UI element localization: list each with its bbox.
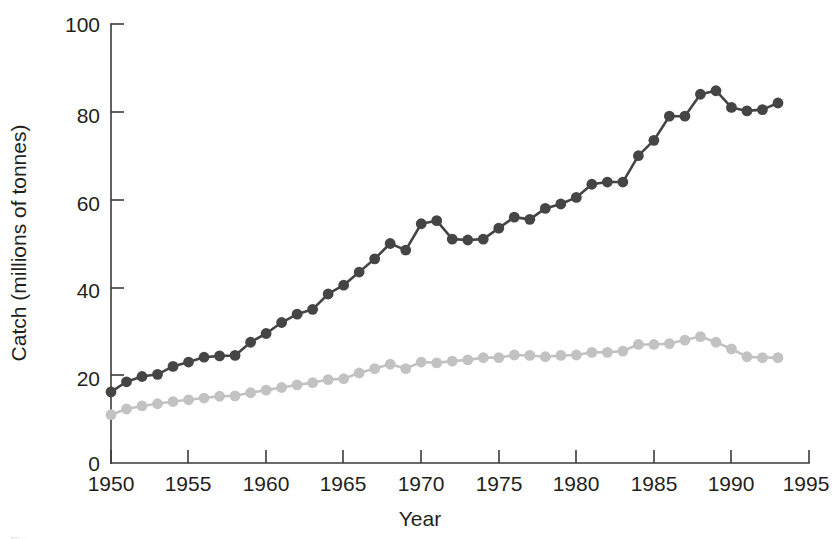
data-point xyxy=(431,215,442,226)
data-point xyxy=(416,218,427,229)
data-point xyxy=(168,361,179,372)
data-point xyxy=(586,347,597,358)
data-point xyxy=(183,394,194,405)
data-point xyxy=(354,267,365,278)
x-tick-label: 1990 xyxy=(708,472,755,495)
data-point xyxy=(230,350,241,361)
y-tick-label: 40 xyxy=(77,279,100,302)
x-tick-label: 1975 xyxy=(476,472,523,495)
data-point xyxy=(400,363,411,374)
line-chart-svg: Catch (millions of tonnes) 0 20 40 60 80… xyxy=(0,0,838,539)
data-point xyxy=(757,352,768,363)
data-point xyxy=(369,363,380,374)
x-tick-label: 1980 xyxy=(553,472,600,495)
data-point xyxy=(183,357,194,368)
x-tick-label: 1985 xyxy=(631,472,678,495)
data-point xyxy=(773,352,784,363)
data-point xyxy=(571,350,582,361)
data-point xyxy=(261,328,272,339)
data-point xyxy=(524,214,535,225)
data-point xyxy=(354,368,365,379)
data-point xyxy=(106,386,117,397)
data-point xyxy=(338,373,349,384)
data-point xyxy=(555,199,566,210)
data-point xyxy=(292,379,303,390)
series-food-fish-catch xyxy=(106,331,784,420)
data-point xyxy=(493,223,504,234)
data-point xyxy=(726,343,737,354)
x-tick-label: 1960 xyxy=(243,472,290,495)
data-point xyxy=(571,192,582,203)
data-point xyxy=(307,304,318,315)
data-point xyxy=(199,352,210,363)
data-point xyxy=(137,401,148,412)
data-point xyxy=(711,337,722,348)
y-tick-label: 100 xyxy=(65,13,100,36)
data-point xyxy=(447,234,458,245)
data-point xyxy=(711,85,722,96)
y-axis-title: Catch (millions of tonnes) xyxy=(7,125,30,362)
x-axis-title: Year xyxy=(399,507,441,530)
data-point xyxy=(369,253,380,264)
data-point xyxy=(106,409,117,420)
x-tick-label: 1955 xyxy=(165,472,212,495)
data-point xyxy=(462,354,473,365)
y-axis-ticks xyxy=(111,24,124,375)
data-point xyxy=(307,377,318,388)
y-tick-label: 60 xyxy=(77,192,100,215)
data-point xyxy=(586,179,597,190)
data-point xyxy=(152,398,163,409)
data-point xyxy=(509,350,520,361)
data-point xyxy=(509,212,520,223)
x-tick-label: 1995 xyxy=(783,472,830,495)
x-axis-ticks xyxy=(111,450,809,463)
data-point xyxy=(695,331,706,342)
data-point xyxy=(276,317,287,328)
x-tick-label: 1950 xyxy=(88,472,135,495)
data-point xyxy=(648,339,659,350)
data-point xyxy=(680,335,691,346)
data-point xyxy=(633,150,644,161)
data-point xyxy=(664,111,675,122)
series-line-food-fish-catch xyxy=(111,337,778,415)
data-point xyxy=(773,98,784,109)
data-point xyxy=(137,371,148,382)
y-tick-labels: 0 20 40 60 80 100 xyxy=(65,13,100,475)
data-point xyxy=(742,106,753,117)
x-tick-label: 1970 xyxy=(398,472,445,495)
data-point xyxy=(742,351,753,362)
data-point xyxy=(478,352,489,363)
data-point xyxy=(168,396,179,407)
data-point xyxy=(338,280,349,291)
data-point xyxy=(121,376,132,387)
x-tick-labels: 1950 1955 1960 1965 1970 1975 1980 1985 … xyxy=(88,472,830,495)
data-point xyxy=(680,111,691,122)
series-line-total-catch xyxy=(111,91,778,392)
data-point xyxy=(540,351,551,362)
data-point xyxy=(292,309,303,320)
y-tick-label: 20 xyxy=(77,367,100,390)
data-point xyxy=(462,235,473,246)
data-point xyxy=(478,234,489,245)
data-point xyxy=(617,346,628,357)
data-point xyxy=(385,238,396,249)
data-point xyxy=(431,358,442,369)
data-point xyxy=(695,89,706,100)
data-point xyxy=(633,339,644,350)
data-point xyxy=(648,135,659,146)
data-point xyxy=(199,393,210,404)
data-point xyxy=(245,337,256,348)
data-point xyxy=(214,350,225,361)
data-point xyxy=(385,359,396,370)
data-point xyxy=(555,350,566,361)
series-total-catch xyxy=(106,85,784,397)
data-point xyxy=(400,245,411,256)
data-point xyxy=(152,369,163,380)
y-tick-label: 80 xyxy=(77,104,100,127)
data-point xyxy=(757,104,768,115)
data-point xyxy=(447,356,458,367)
data-point xyxy=(602,347,613,358)
data-point xyxy=(493,352,504,363)
data-point xyxy=(617,177,628,188)
data-point xyxy=(230,390,241,401)
